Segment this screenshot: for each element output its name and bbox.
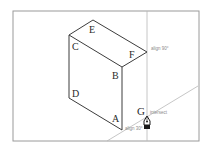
align-30-hint: align 30°	[125, 126, 143, 131]
vertex-label-g: G	[137, 105, 145, 117]
vertex-label-d: D	[72, 88, 79, 99]
align-90-hint: align 90°	[151, 46, 169, 51]
drawing-frame	[13, 11, 199, 141]
vertex-label-b: B	[112, 70, 119, 81]
intersect-hint: intersect	[150, 110, 168, 115]
top-face-outline	[69, 20, 147, 67]
vertex-label-a: A	[112, 113, 120, 124]
vertex-label-e: E	[89, 24, 95, 35]
isometric-box-diagram: E C F B D A G align 90° align 30° inters…	[0, 0, 208, 150]
vertex-label-c: C	[72, 41, 79, 52]
vertex-label-f: F	[129, 49, 135, 60]
box-edges	[69, 20, 147, 130]
